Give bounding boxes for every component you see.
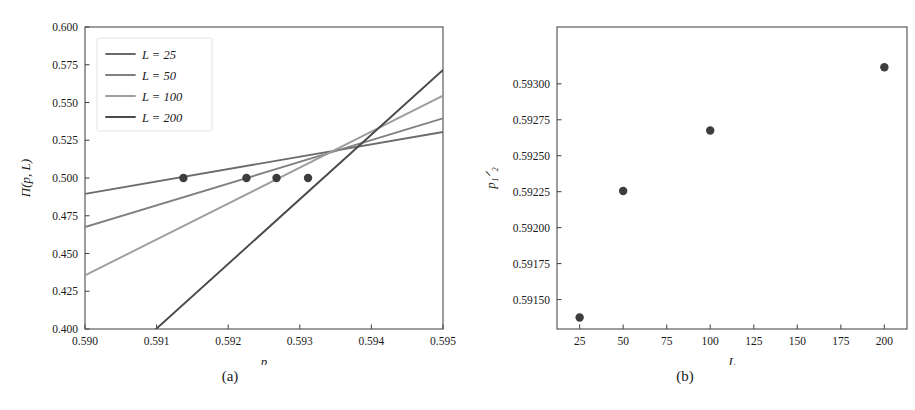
panel-a-xaxis-title: p	[260, 354, 268, 365]
panel-a-xtick-label: 0.591	[144, 335, 170, 347]
panel-a-ytick-label: 0.425	[52, 285, 78, 297]
panel-b-xtick-label: 150	[789, 335, 807, 347]
panel-a-ytick-label: 0.500	[52, 172, 78, 184]
panel-a-ytick-label: 0.600	[52, 21, 78, 33]
panel-b-yaxis-title: p₁ᐟ₂	[483, 167, 498, 190]
panel-a-xtick-label: 0.595	[430, 335, 456, 347]
panel-b: 2550751001251501752000.591500.591750.592…	[455, 0, 915, 410]
legend-label: L = 100	[141, 90, 183, 104]
panel-b-ytick-label: 0.59275	[513, 114, 551, 126]
panel-a-data-point	[179, 174, 187, 182]
figure-container: 0.5900.5910.5920.5930.5940.5950.4000.425…	[0, 0, 915, 410]
panel-b-data-point	[575, 313, 583, 321]
panel-a-yaxis-title: Π(p, L)	[18, 159, 33, 198]
legend-label: L = 25	[141, 48, 176, 62]
panel-a-plot: 0.5900.5910.5920.5930.5940.5950.4000.425…	[0, 0, 460, 365]
panel-b-caption: (b)	[455, 368, 915, 385]
panel-a-xtick-label: 0.590	[72, 335, 98, 347]
panel-b-ytick-label: 0.59150	[513, 294, 551, 306]
panel-a-data-point	[272, 174, 280, 182]
panel-b-ytick-label: 0.59300	[513, 78, 551, 90]
panel-a-xtick-label: 0.594	[358, 335, 384, 347]
panel-b-xtick-label: 50	[617, 335, 629, 347]
panel-b-xtick-label: 25	[574, 335, 586, 347]
panel-b-data-point	[880, 63, 888, 71]
panel-a-ytick-label: 0.550	[52, 97, 78, 109]
panel-a-ytick-label: 0.525	[52, 134, 78, 146]
panel-a-ytick-label: 0.400	[52, 323, 78, 335]
panel-b-xtick-label: 175	[832, 335, 850, 347]
panel-b-xtick-label: 75	[661, 335, 673, 347]
panel-b-plot: 2550751001251501752000.591500.591750.592…	[455, 0, 915, 365]
panel-a-data-point	[304, 174, 312, 182]
panel-a-ytick-label: 0.475	[52, 210, 78, 222]
panel-a-xtick-label: 0.592	[215, 335, 241, 347]
panel-a-ytick-label: 0.575	[52, 59, 78, 71]
panel-a: 0.5900.5910.5920.5930.5940.5950.4000.425…	[0, 0, 460, 410]
panel-b-data-point	[706, 126, 714, 134]
panel-a-caption: (a)	[0, 368, 460, 385]
panel-b-ytick-label: 0.59200	[513, 222, 551, 234]
panel-b-ytick-label: 0.59175	[513, 258, 551, 270]
panel-b-xaxis-title: L	[727, 354, 735, 365]
panel-b-xtick-label: 125	[745, 335, 763, 347]
panel-b-ytick-label: 0.59225	[513, 186, 551, 198]
legend-label: L = 50	[141, 69, 177, 83]
panel-a-data-point	[242, 174, 250, 182]
panel-a-xtick-label: 0.593	[287, 335, 313, 347]
panel-b-xtick-label: 100	[702, 335, 720, 347]
legend-label: L = 200	[141, 111, 183, 125]
panel-a-curve	[85, 118, 443, 227]
panel-b-xtick-label: 200	[876, 335, 894, 347]
panel-b-ytick-label: 0.59250	[513, 150, 551, 162]
panel-b-data-point	[619, 187, 627, 195]
panel-a-ytick-label: 0.450	[52, 248, 78, 260]
